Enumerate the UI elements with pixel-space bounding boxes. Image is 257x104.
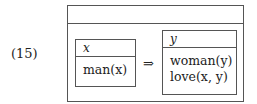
example-number: (15) (11, 46, 38, 61)
consequent-universe: y (170, 32, 177, 46)
condition-text: love(x, y) (170, 69, 228, 84)
antecedent-drs-box: x man(x) (75, 39, 136, 87)
implication-arrow: ⇒ (143, 56, 154, 71)
consequent-universe-divider (163, 47, 236, 48)
antecedent-condition: man(x) (83, 62, 127, 77)
consequent-condition-1: woman(y) (170, 53, 232, 68)
antecedent-universe-divider (76, 56, 135, 57)
outer-universe-divider (68, 23, 243, 24)
antecedent-universe: x (83, 41, 90, 55)
condition-text: man(x) (83, 62, 127, 77)
consequent-condition-2: love(x, y) (170, 69, 228, 84)
condition-text: woman(y) (170, 53, 232, 68)
outer-drs-box: x man(x) ⇒ y woman(y) love(x, y) (67, 5, 244, 102)
consequent-drs-box: y woman(y) love(x, y) (162, 30, 237, 95)
